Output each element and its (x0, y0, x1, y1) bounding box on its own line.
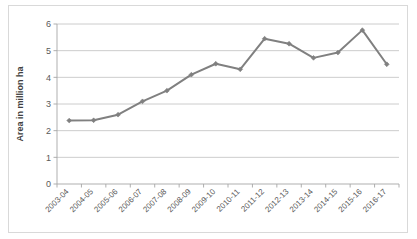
y-tick-label: 4 (46, 73, 51, 83)
y-axis-tick-labels: 0123456 (46, 19, 51, 189)
x-axis-tick-labels: 2003-042004-052005-062006-072007-082008-… (44, 187, 389, 215)
x-tick-label: 2006-07 (117, 187, 145, 215)
axis-tickmarks (54, 24, 400, 188)
y-tick-label: 2 (46, 126, 51, 136)
y-axis-title: Area in million ha (15, 65, 25, 141)
x-tick-label: 2004-05 (68, 187, 96, 215)
y-tick-label: 3 (46, 99, 51, 109)
x-tick-label: 2005-06 (92, 187, 120, 215)
y-tick-label: 6 (46, 19, 51, 29)
x-tick-label: 2015-16 (337, 187, 365, 215)
y-tick-label: 5 (46, 46, 51, 56)
x-tick-label: 2003-04 (44, 187, 72, 215)
chart-container: 0123456 2003-042004-052005-062006-072007… (8, 5, 408, 233)
y-tick-label: 1 (46, 153, 51, 163)
x-tick-label: 2014-15 (312, 187, 340, 215)
y-tick-label: 0 (46, 179, 51, 189)
data-point-marker (67, 118, 72, 123)
x-tick-label: 2016-17 (361, 187, 389, 215)
x-tick-label: 2013-14 (288, 187, 316, 215)
x-tick-label: 2009-10 (190, 187, 218, 215)
x-tick-label: 2012-13 (263, 187, 291, 215)
data-point-marker (91, 118, 96, 123)
line-chart: 0123456 2003-042004-052005-062006-072007… (9, 6, 407, 232)
data-point-markers (67, 28, 389, 123)
data-series-line (69, 30, 387, 120)
x-tick-label: 2008-09 (166, 187, 194, 215)
x-tick-label: 2010-11 (215, 187, 242, 214)
x-tick-label: 2007-08 (141, 187, 169, 215)
x-tick-label: 2011-12 (239, 187, 266, 214)
